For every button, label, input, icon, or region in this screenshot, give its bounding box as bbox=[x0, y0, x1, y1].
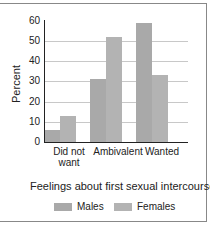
bar-males-did-not-want bbox=[44, 130, 60, 142]
bar-males-wanted bbox=[136, 23, 152, 142]
y-axis bbox=[44, 20, 45, 143]
bar-females-ambivalent bbox=[106, 37, 122, 142]
legend-swatch-females bbox=[114, 203, 132, 211]
y-tick-20: 20 bbox=[22, 97, 40, 107]
x-axis bbox=[44, 142, 188, 143]
x-tick-did-not-want: Did not want bbox=[52, 146, 86, 168]
legend-label-males: Males bbox=[77, 201, 104, 212]
legend-swatch-males bbox=[54, 203, 72, 211]
y-axis-label: Percent bbox=[10, 64, 22, 104]
y-tick-40: 40 bbox=[22, 56, 40, 66]
y-tick-10: 10 bbox=[22, 117, 40, 127]
bar-females-wanted bbox=[152, 75, 168, 142]
x-tick-ambivalent: Ambivalent bbox=[93, 146, 143, 157]
y-tick-50: 50 bbox=[22, 36, 40, 46]
x-tick-wanted: Wanted bbox=[142, 146, 182, 157]
legend-item-males: Males bbox=[54, 201, 104, 212]
plot-area bbox=[44, 21, 188, 142]
y-tick-60: 60 bbox=[22, 16, 40, 26]
x-axis-title: Feelings about first sexual intercourse bbox=[30, 180, 210, 192]
bar-females-did-not-want bbox=[60, 116, 76, 142]
x-tick-line: Did not bbox=[52, 146, 86, 157]
x-tick-line: want bbox=[52, 157, 86, 168]
y-tick-0: 0 bbox=[22, 137, 40, 147]
legend-label-females: Females bbox=[137, 201, 175, 212]
legend-item-females: Females bbox=[114, 201, 175, 212]
y-tick-30: 30 bbox=[22, 76, 40, 86]
bar-males-ambivalent bbox=[90, 79, 106, 142]
